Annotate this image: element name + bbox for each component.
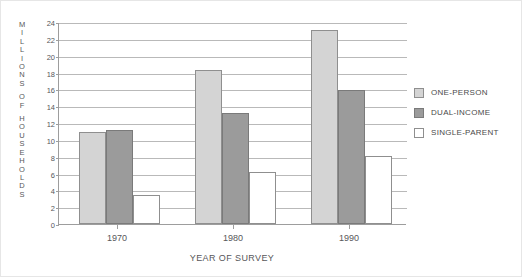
x-tick-label: 1980 bbox=[223, 233, 243, 243]
y-tick-label: 2 bbox=[51, 204, 55, 213]
y-tick-label: 22 bbox=[47, 35, 55, 44]
x-tick-mark bbox=[233, 225, 234, 229]
y-tick-mark bbox=[56, 208, 59, 209]
y-tick-label: 24 bbox=[47, 19, 55, 28]
gridline bbox=[59, 23, 407, 24]
chart-legend: ONE-PERSONDUAL-INCOMESINGLE-PARENT bbox=[414, 85, 499, 145]
y-tick-label: 20 bbox=[47, 52, 55, 61]
chart-figure: MILLIONSOFHOUSEHOLDS 0246810121416182022… bbox=[0, 0, 522, 277]
legend-item: ONE-PERSON bbox=[414, 85, 499, 100]
bar bbox=[365, 156, 392, 224]
bar bbox=[222, 113, 249, 224]
legend-swatch-icon bbox=[414, 108, 424, 118]
legend-label: ONE-PERSON bbox=[431, 88, 488, 97]
y-tick-mark bbox=[56, 40, 59, 41]
y-tick-mark bbox=[56, 225, 59, 226]
y-tick-mark bbox=[56, 191, 59, 192]
y-tick-label: 14 bbox=[47, 103, 55, 112]
gridline bbox=[59, 57, 407, 58]
legend-item: DUAL-INCOME bbox=[414, 105, 499, 120]
bar bbox=[133, 195, 160, 224]
y-tick-label: 16 bbox=[47, 86, 55, 95]
y-tick-mark bbox=[56, 124, 59, 125]
legend-swatch-icon bbox=[414, 88, 424, 98]
y-tick-mark bbox=[56, 57, 59, 58]
gridline bbox=[59, 40, 407, 41]
y-tick-mark bbox=[56, 23, 59, 24]
y-axis-label-letter: S bbox=[13, 80, 31, 88]
y-tick-label: 18 bbox=[47, 69, 55, 78]
y-tick-label: 4 bbox=[51, 187, 55, 196]
bar bbox=[195, 70, 222, 224]
y-tick-mark bbox=[56, 141, 59, 142]
bar bbox=[249, 172, 276, 224]
legend-swatch-icon bbox=[414, 128, 424, 138]
x-tick-mark bbox=[117, 225, 118, 229]
bar bbox=[338, 90, 365, 224]
x-tick-mark bbox=[349, 225, 350, 229]
y-tick-mark bbox=[56, 90, 59, 91]
y-tick-mark bbox=[56, 158, 59, 159]
plot-area: 024681012141618202224197019801990 bbox=[58, 23, 406, 225]
x-tick-label: 1990 bbox=[339, 233, 359, 243]
y-tick-mark bbox=[56, 107, 59, 108]
bar bbox=[311, 30, 338, 224]
x-axis-label: YEAR OF SURVEY bbox=[58, 253, 406, 263]
y-tick-label: 10 bbox=[47, 136, 55, 145]
gridline bbox=[59, 74, 407, 75]
y-tick-label: 8 bbox=[51, 153, 55, 162]
y-tick-label: 0 bbox=[51, 221, 55, 230]
bar bbox=[79, 132, 106, 224]
y-axis-label: MILLIONSOFHOUSEHOLDS bbox=[13, 21, 31, 199]
y-tick-mark bbox=[56, 74, 59, 75]
x-tick-label: 1970 bbox=[107, 233, 127, 243]
y-tick-label: 12 bbox=[47, 120, 55, 129]
legend-item: SINGLE-PARENT bbox=[414, 125, 499, 140]
legend-label: SINGLE-PARENT bbox=[431, 128, 499, 137]
y-axis-label-letter: F bbox=[13, 102, 31, 110]
y-axis-label-letter: S bbox=[13, 191, 31, 199]
bar bbox=[106, 130, 133, 224]
y-tick-label: 6 bbox=[51, 170, 55, 179]
y-tick-mark bbox=[56, 175, 59, 176]
legend-label: DUAL-INCOME bbox=[431, 108, 490, 117]
